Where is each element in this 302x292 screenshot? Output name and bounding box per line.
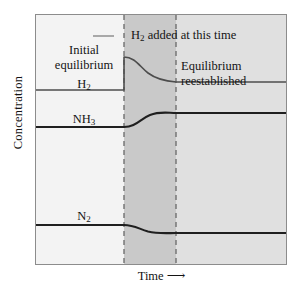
equilibrium-concentration-figure: Concentration Initial equilibrium H2 (0, 0, 302, 292)
annotation-h2-added: H2 added at this time (131, 28, 236, 46)
annotation-initial-equilibrium: Initial equilibrium (44, 43, 124, 72)
series-label-n2-subscript: 2 (86, 214, 91, 224)
x-axis-title: Time⟶ (35, 268, 287, 284)
annotation-equilibrium-reestablished-line2: reestablished (181, 74, 246, 88)
series-label-n2-text: N (77, 209, 86, 223)
series-label-nh3: NH3 (44, 112, 124, 130)
annotation-h2-added-prefix: H (131, 28, 140, 42)
y-axis-title: Concentration (11, 33, 26, 193)
annotation-initial-equilibrium-line1: Initial (69, 43, 99, 57)
series-label-h2-subscript: 2 (86, 82, 91, 92)
plot-area: Initial equilibrium H2 NH3 N2 H2 added a… (35, 14, 287, 265)
arrow-right-icon: ⟶ (167, 268, 185, 284)
annotation-equilibrium-reestablished: Equilibrium reestablished (181, 59, 285, 88)
series-label-h2: H2 (44, 77, 124, 95)
series-label-n2: N2 (44, 209, 124, 227)
series-label-h2-text: H (77, 77, 86, 91)
series-label-nh3-text: NH (73, 112, 91, 126)
annotation-h2-added-rest: added at this time (145, 28, 237, 42)
annotation-initial-equilibrium-line2: equilibrium (55, 58, 113, 72)
annotation-equilibrium-reestablished-line1: Equilibrium (181, 59, 241, 73)
series-label-nh3-subscript: 3 (91, 117, 96, 127)
x-axis-title-text: Time (138, 269, 164, 283)
